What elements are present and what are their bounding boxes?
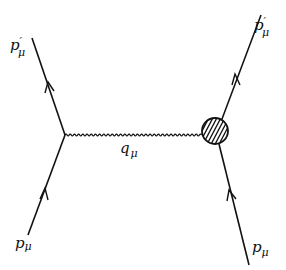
incoming-right-fermion-line (219, 144, 249, 265)
incoming-left-fermion-line (28, 135, 65, 235)
hadron-vertex-blob (188, 112, 240, 150)
label-bottom-left-momentum: pμ (15, 234, 32, 253)
label-photon-momentum: qμ (120, 139, 138, 160)
photon-propagator (65, 134, 202, 136)
label-top-right-momentum: p′μ (254, 15, 269, 39)
label-top-left-momentum: p′μ (10, 35, 25, 59)
label-bottom-right-momentum: pμ (252, 238, 269, 259)
feynman-diagram: p′μ pμ qμ p′μ pμ (0, 0, 286, 270)
outgoing-left-fermion-line (32, 38, 65, 135)
